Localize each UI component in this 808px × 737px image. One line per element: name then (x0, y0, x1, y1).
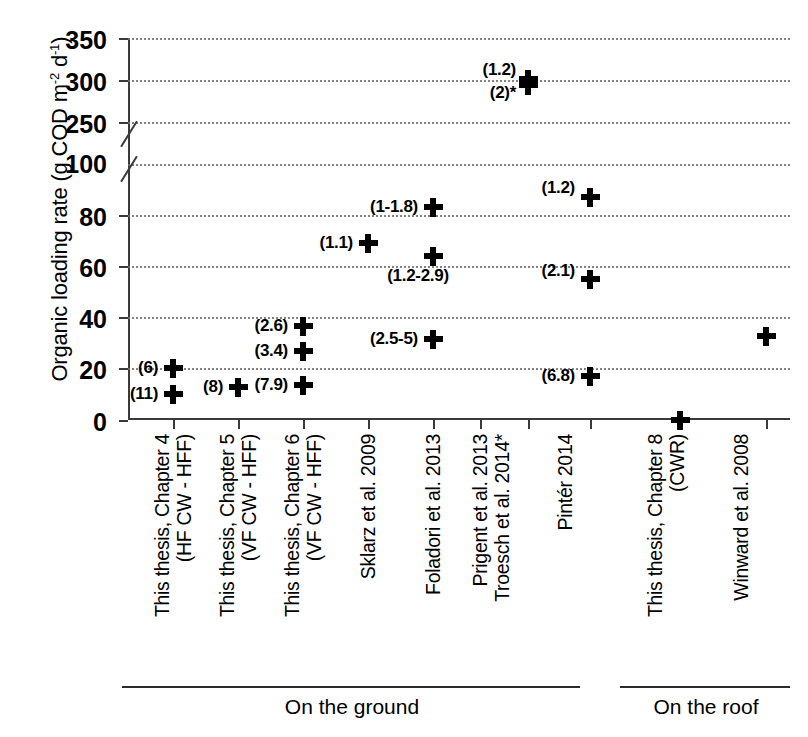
x-category-line1: This thesis, Chapter 4 (151, 434, 173, 617)
data-point-label: (1-1.8) (370, 197, 418, 217)
x-category-line2: (VF CW - HFF) (303, 434, 325, 561)
x-category-label-chapter-8: This thesis, Chapter 8 (645, 434, 665, 617)
x-category-line1: Troesch et al. 2014* (491, 434, 513, 602)
x-category-sublabel-chapter-4: (HF CW - HFF) (174, 434, 194, 562)
y-tick-80: 80 (119, 215, 128, 217)
data-point-label: (1.1) (320, 233, 353, 253)
data-point-label: (6) (138, 358, 158, 378)
y-axis-sup-m2: -2 (47, 73, 62, 84)
y-tick-0: 0 (119, 420, 128, 422)
x-category-label-foladori-2013: Foladori et al. 2013 (423, 434, 443, 595)
data-point-label: (8) (203, 377, 223, 397)
x-category-label-troesch-2014: Troesch et al. 2014* (492, 434, 512, 602)
y-tick-label-350: 350 (65, 26, 107, 55)
x-tick-8 (590, 420, 592, 429)
x-category-line2: (HF CW - HFF) (173, 434, 195, 562)
x-category-line1: Winward et al. 2008 (730, 434, 752, 601)
x-category-label-chapter-4: This thesis, Chapter 4 (152, 434, 172, 617)
x-tick-4 (368, 420, 370, 429)
x-tick-5 (433, 420, 435, 429)
gridline-250 (128, 122, 790, 124)
group-bracket-roof (620, 686, 790, 688)
data-point-label: (6.8) (542, 366, 575, 386)
data-point-label: (1.2-2.9) (387, 266, 449, 286)
group-label-ground: On the ground (285, 695, 419, 719)
x-category-line1: Sklarz et al. 2009 (357, 434, 379, 579)
y-axis-title: Organic loading rate (g COD m-2 d-1) (47, 0, 73, 419)
x-category-line2: (CWR) (666, 434, 688, 492)
y-tick-label-300: 300 (65, 68, 107, 97)
data-point-label: (1.2) (483, 60, 516, 80)
y-axis-line (128, 38, 130, 420)
x-category-line1: Pintér 2014 (554, 434, 576, 530)
x-axis-line (128, 418, 790, 420)
y-tick-label-0: 0 (93, 408, 107, 437)
gridline-100 (128, 164, 790, 166)
y-tick-60: 60 (119, 266, 128, 268)
y-tick-40: 40 (119, 317, 128, 319)
x-tick-2 (238, 420, 240, 429)
y-tick-label-100: 100 (65, 150, 107, 179)
x-tick-1 (173, 420, 175, 429)
x-category-sublabel-chapter-8: (CWR) (667, 434, 687, 492)
data-point-label: (1.2) (542, 178, 575, 198)
x-category-label-sklarz-2009: Sklarz et al. 2009 (358, 434, 378, 579)
x-category-line2: (VF CW - HFF) (238, 434, 260, 561)
x-tick-6 (480, 420, 482, 429)
group-bracket-ground (122, 686, 580, 688)
data-point-label: (2.5-5) (370, 329, 418, 349)
x-category-line1: This thesis, Chapter 5 (216, 434, 238, 617)
data-point-label: (2.1) (542, 261, 575, 281)
y-tick-20: 20 (119, 368, 128, 370)
x-category-label-chapter-6: This thesis, Chapter 6 (282, 434, 302, 617)
gridline-350 (128, 38, 790, 40)
x-category-sublabel-chapter-6: (VF CW - HFF) (304, 434, 324, 561)
y-tick-250: 250 (119, 122, 128, 124)
x-category-line1: This thesis, Chapter 6 (281, 434, 303, 617)
y-tick-label-80: 80 (79, 203, 107, 232)
x-category-line1: This thesis, Chapter 8 (644, 434, 666, 617)
x-category-label-pinter-2014: Pintér 2014 (555, 434, 575, 530)
data-point-label: (2)* (490, 83, 516, 103)
x-category-label-chapter-5: This thesis, Chapter 5 (217, 434, 237, 617)
gridline-40 (128, 317, 790, 319)
plot-area: 350 300 250 100 80 60 40 20 0 (128, 38, 790, 420)
y-tick-label-60: 60 (79, 254, 107, 283)
x-category-line1: Foladori et al. 2013 (422, 434, 444, 595)
x-tick-10 (766, 420, 768, 429)
y-tick-350: 350 (119, 38, 128, 40)
x-category-sublabel-chapter-5: (VF CW - HFF) (239, 434, 259, 561)
chart-page: Organic loading rate (g COD m-2 d-1) 350… (0, 0, 808, 737)
gridline-60 (128, 266, 790, 268)
x-tick-3 (303, 420, 305, 429)
y-tick-label-20: 20 (79, 356, 107, 385)
y-tick-label-250: 250 (65, 110, 107, 139)
x-tick-7 (528, 420, 530, 429)
group-label-roof: On the roof (653, 695, 758, 719)
data-point-label: (3.4) (255, 341, 288, 361)
data-point-label: (11) (130, 384, 158, 404)
y-axis-sup-d1: -1 (47, 44, 62, 55)
gridline-300 (128, 80, 790, 82)
x-category-label-winward-2008: Winward et al. 2008 (731, 434, 751, 601)
y-tick-label-40: 40 (79, 305, 107, 334)
y-tick-300: 300 (119, 80, 128, 82)
x-category-line1: Prigent et al. 2013 (469, 434, 491, 587)
gridline-20 (128, 368, 790, 370)
x-category-label-prigent-2013: Prigent et al. 2013 (470, 434, 490, 587)
data-point-label: (2.6) (255, 316, 288, 336)
gridline-80 (128, 215, 790, 217)
data-point-label: (7.9) (255, 375, 288, 395)
